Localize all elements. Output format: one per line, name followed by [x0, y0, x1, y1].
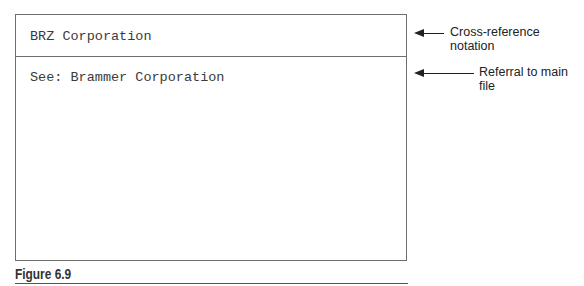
- arrow-line: [420, 73, 474, 74]
- card-body-text: See: Brammer Corporation: [30, 70, 224, 85]
- figure-caption: Figure 6.9: [15, 266, 71, 282]
- card-divider: [16, 56, 406, 57]
- arrow-line: [420, 33, 444, 34]
- index-card: BRZ Corporation See: Brammer Corporation: [15, 14, 407, 261]
- card-header-text: BRZ Corporation: [30, 29, 152, 44]
- figure-rule: [15, 283, 408, 284]
- annotation-cross-reference: Cross-reference notation: [450, 25, 584, 53]
- annotation-referral: Referral to main file: [479, 65, 584, 93]
